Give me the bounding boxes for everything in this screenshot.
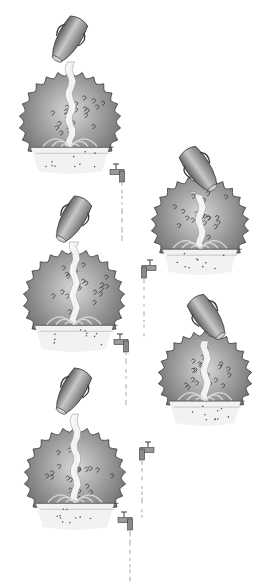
basin-speck <box>214 268 216 270</box>
basin-speck <box>176 262 178 264</box>
basin-speck <box>188 267 190 269</box>
faucet-spout <box>128 519 133 530</box>
basin-speck <box>94 336 96 338</box>
basin-speck <box>217 410 219 412</box>
basin-speck <box>96 333 98 335</box>
basin-speck <box>54 342 56 344</box>
basin-speck <box>204 414 206 416</box>
faucet-spout <box>142 267 147 278</box>
faucet-icon <box>140 442 155 460</box>
basin-speck <box>80 329 82 331</box>
basin-speck <box>60 517 62 519</box>
basin-speck <box>57 515 59 517</box>
basin-speck <box>94 152 96 154</box>
basin-speck <box>228 416 230 418</box>
basin-speck <box>101 344 103 346</box>
faucet-icon <box>110 164 125 182</box>
scene-4 <box>140 290 252 518</box>
basin-speck <box>54 166 56 168</box>
basin-speck <box>86 333 88 335</box>
basin-speck <box>184 253 186 255</box>
basin-speck <box>205 262 207 264</box>
basin-area <box>35 325 113 352</box>
faucet-icon <box>114 334 129 352</box>
basin-speck <box>66 509 68 511</box>
basin-speck <box>94 166 96 168</box>
illustration-canvas <box>0 0 272 587</box>
scene-5 <box>24 364 132 582</box>
basin-speck <box>184 266 186 268</box>
basin-speck <box>79 516 81 518</box>
scenes-layer <box>19 12 251 582</box>
basin-speck <box>54 333 56 335</box>
pouring-jug-icon <box>48 364 97 420</box>
basin-speck <box>221 408 223 410</box>
basin-area <box>36 503 114 530</box>
basin-speck <box>84 151 86 153</box>
basin-speck <box>192 411 194 413</box>
basin-speck <box>86 335 88 337</box>
basin-speck <box>51 165 53 167</box>
basin-speck <box>51 161 53 163</box>
basin-area <box>163 249 238 275</box>
basin-speck <box>197 259 199 261</box>
basin-speck <box>69 522 71 524</box>
basin-speck <box>217 418 219 420</box>
basin-area <box>31 147 109 174</box>
pouring-jug-icon <box>44 12 93 68</box>
basin-speck <box>75 517 77 519</box>
basin-speck <box>54 339 56 341</box>
basin-speck <box>206 419 208 421</box>
basin-speck <box>74 166 76 168</box>
basin-speck <box>202 405 204 407</box>
basin-speck <box>62 521 64 523</box>
basin-speck <box>45 166 47 168</box>
basin-speck <box>223 255 225 257</box>
basin-speck <box>63 508 65 510</box>
basin-speck <box>79 163 81 165</box>
faucet-spout <box>120 171 125 182</box>
basin-area <box>169 401 240 426</box>
basin-speck <box>59 515 61 517</box>
faucet-icon <box>118 512 133 530</box>
faucet-spout <box>124 341 129 352</box>
basin-speck <box>214 418 216 420</box>
faucet-spout <box>140 449 145 460</box>
basin-speck <box>90 518 92 520</box>
basin-speck <box>84 330 86 332</box>
faucet-icon <box>142 260 157 278</box>
pouring-jug-icon <box>48 192 97 248</box>
basin-speck <box>202 266 204 268</box>
basin-speck <box>73 156 75 158</box>
